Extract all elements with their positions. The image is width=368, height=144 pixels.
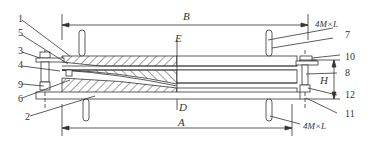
part-label-4: 4	[18, 59, 23, 70]
part-label-5: 5	[18, 27, 23, 38]
label-bolt-top: 4M×L	[315, 19, 338, 29]
label-bolt-bottom: 4M×L	[303, 121, 326, 131]
part-label-12: 12	[345, 89, 355, 100]
part-label-8: 8	[345, 67, 350, 78]
top-plate	[62, 56, 297, 66]
right-bolt-assembly	[296, 50, 318, 110]
part-label-1: 1	[18, 13, 23, 24]
part-label-10: 10	[345, 51, 355, 62]
part-label-2: 2	[25, 111, 30, 122]
part-label-9: 9	[18, 79, 23, 90]
slide-plate	[62, 66, 297, 70]
part-label-3: 3	[18, 45, 23, 56]
label-h: H	[319, 74, 329, 86]
assembly-drawing: B E D A H 4M×L 4M×L 1 5 3 4 9 6 2 7 10 8…	[0, 0, 368, 144]
part-label-11: 11	[345, 108, 355, 119]
label-e: E	[174, 32, 182, 44]
label-a: A	[177, 116, 185, 128]
part-label-6: 6	[18, 93, 23, 104]
label-d: D	[178, 101, 187, 113]
label-b: B	[183, 10, 190, 22]
part-label-7: 7	[345, 29, 350, 40]
